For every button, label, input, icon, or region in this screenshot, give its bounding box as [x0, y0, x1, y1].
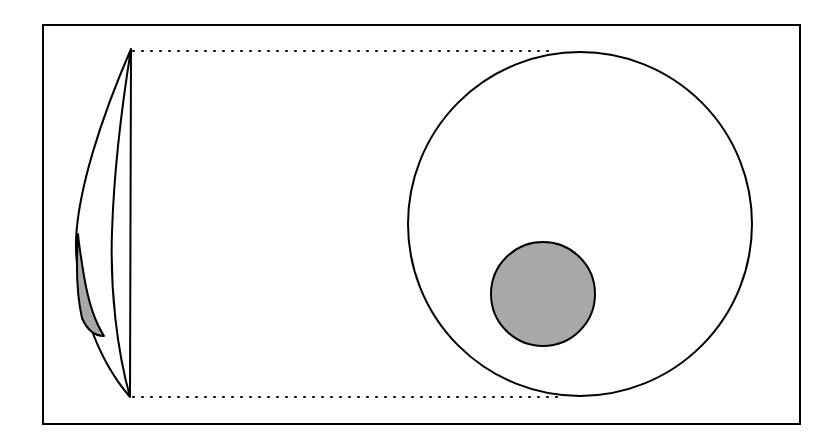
geometric-diagram-svg — [0, 0, 838, 441]
figure-canvas: Lens and circle geometric diagram — [0, 0, 838, 441]
small-shaded-circle — [491, 242, 595, 346]
